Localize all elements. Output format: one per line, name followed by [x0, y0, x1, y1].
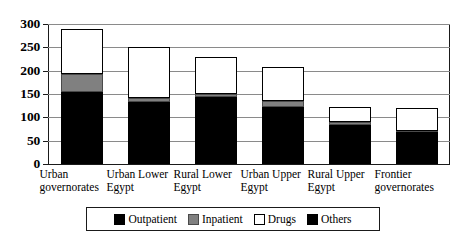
- y-axis-tick-label: 100: [0, 110, 40, 124]
- y-axis-tick-label: 150: [0, 87, 40, 101]
- legend-item-drugs: Drugs: [254, 213, 296, 225]
- bar-2: [128, 24, 170, 164]
- bar-5: [329, 24, 371, 164]
- legend-label: Drugs: [268, 213, 296, 225]
- y-axis-tick-label: 300: [0, 17, 40, 31]
- bar-segment-drugs: [61, 29, 103, 74]
- legend-label: Inpatient: [202, 213, 243, 225]
- bar-segment-drugs: [329, 107, 371, 122]
- bar-segment-outpatient: [195, 97, 237, 164]
- bar-segment-drugs: [195, 57, 237, 94]
- gridline: [48, 94, 450, 95]
- legend-swatch-others-icon: [307, 214, 318, 225]
- bar-segment-inpatient: [61, 74, 103, 92]
- y-axis-tick-label: 250: [0, 40, 40, 54]
- gridline: [48, 71, 450, 72]
- category-label-line: governorates: [375, 181, 466, 194]
- chart-legend: OutpatientInpatientDrugsOthers: [86, 207, 380, 231]
- y-axis-tick: [43, 47, 48, 48]
- y-axis-tick: [43, 71, 48, 72]
- gridline: [48, 141, 450, 142]
- bar-segment-outpatient: [329, 125, 371, 164]
- stacked-bar-chart: 050100150200250300 UrbangovernoratesUrba…: [0, 0, 466, 245]
- y-axis-tick: [43, 94, 48, 95]
- bar-segment-drugs: [128, 47, 170, 97]
- gridline: [48, 117, 450, 118]
- y-axis-tick-label: 200: [0, 64, 40, 78]
- bar-segment-inpatient: [195, 94, 237, 97]
- bar-segment-inpatient: [262, 101, 304, 107]
- bar-segment-inpatient: [128, 98, 170, 103]
- bar-segment-outpatient: [61, 92, 103, 164]
- y-axis-tick: [43, 24, 48, 25]
- legend-item-others: Others: [307, 213, 352, 225]
- legend-item-outpatient: Outpatient: [114, 213, 177, 225]
- legend-swatch-outpatient-icon: [114, 214, 125, 225]
- bar-6: [396, 24, 438, 164]
- x-axis-line: [48, 164, 450, 165]
- legend-item-inpatient: Inpatient: [188, 213, 243, 225]
- bar-segment-outpatient: [262, 107, 304, 164]
- bar-segment-drugs: [262, 67, 304, 101]
- category-label-line: Frontier: [375, 168, 466, 181]
- y-axis-tick-label: 0: [0, 157, 40, 171]
- legend-label: Others: [321, 213, 352, 225]
- bar-segment-outpatient: [396, 132, 438, 164]
- y-axis-tick: [43, 164, 48, 165]
- legend-swatch-inpatient-icon: [188, 214, 199, 225]
- y-axis-tick: [43, 117, 48, 118]
- gridline: [48, 47, 450, 48]
- bar-1: [61, 24, 103, 164]
- bar-3: [195, 24, 237, 164]
- y-axis-tick: [43, 141, 48, 142]
- gridline: [48, 24, 450, 25]
- bar-segment-inpatient: [329, 122, 371, 125]
- legend-label: Outpatient: [128, 213, 177, 225]
- bar-4: [262, 24, 304, 164]
- bar-segment-outpatient: [128, 102, 170, 164]
- legend-swatch-drugs-icon: [254, 214, 265, 225]
- bar-segment-drugs: [396, 108, 438, 131]
- y-axis-tick-label: 50: [0, 134, 40, 148]
- category-label-6: Frontiergovernorates: [375, 168, 466, 193]
- plot-area: [48, 24, 450, 164]
